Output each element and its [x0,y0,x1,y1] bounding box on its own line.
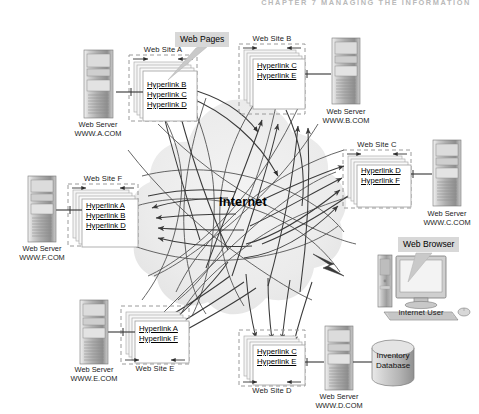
site-d-hyperlink-1[interactable]: Hyperlink C [257,347,297,358]
server-f-caption-line1: Web Server [23,244,62,253]
server-icon-b [332,38,360,104]
server-a-caption-line1: Web Server [79,120,118,129]
web-pages-callout: Web Pages [175,32,229,47]
site-c-label: Web Site C [357,140,396,149]
site-a-hyperlink-3[interactable]: Hyperlink D [147,100,187,111]
server-e-caption-line2: WWW.E.COM [71,374,118,383]
site-a-hyperlink-2[interactable]: Hyperlink C [147,90,187,101]
database-label-line1: Inventory [377,351,410,361]
site-b-label: Web Site B [253,34,292,43]
server-f-caption-line2: WWW.F.COM [19,253,65,262]
site-b-hyperlink-1[interactable]: Hyperlink C [257,61,297,72]
site-e-hyperlink-1[interactable]: Hyperlink A [139,324,178,335]
site-b-hyperlink-2[interactable]: Hyperlink E [257,71,296,82]
server-c-caption-line1: Web Server [428,209,467,218]
site-f-hyperlink-3[interactable]: Hyperlink D [86,221,126,232]
server-b-caption-line2: WWW.B.COM [323,116,370,125]
site-e-hyperlink-2[interactable]: Hyperlink F [139,334,178,345]
database-label-line2: Database [376,361,410,371]
site-f-label: Web Site F [84,174,122,183]
server-c-caption-line2: WWW.C.COM [423,218,470,227]
site-f-hyperlink-2[interactable]: Hyperlink B [86,211,125,222]
server-icon-a [84,50,113,118]
server-b-caption-line1: Web Server [327,107,366,116]
site-c-hyperlink-2[interactable]: Hyperlink F [361,176,400,187]
server-d-caption-line1: Web Server [320,392,359,401]
server-d-caption-line2: WWW.D.COM [315,401,362,410]
internet-user-label: Internet User [398,308,443,317]
internet-label: Internet [219,195,267,209]
server-e-caption-line1: Web Server [75,365,114,374]
server-icon-f [28,176,56,242]
server-icon-d [325,326,353,390]
site-d-hyperlink-2[interactable]: Hyperlink E [257,357,296,368]
internet-user-icon [313,254,470,320]
web-browser-callout: Web Browser [398,237,459,252]
server-icon-e [80,300,108,364]
site-d-label: Web Site D [252,386,291,395]
site-a-hyperlink-1[interactable]: Hyperlink B [147,80,186,91]
site-c-hyperlink-1[interactable]: Hyperlink D [361,166,401,177]
server-a-caption-line2: WWW.A.COM [75,129,122,138]
site-e-label: Web Site E [136,364,175,373]
server-icon-c [433,140,461,206]
figure-canvas: CHAPTER 7 MANAGING THE INFORMATION [0,0,479,414]
site-f-hyperlink-1[interactable]: Hyperlink A [86,201,125,212]
site-a-label: Web Site A [144,45,182,54]
